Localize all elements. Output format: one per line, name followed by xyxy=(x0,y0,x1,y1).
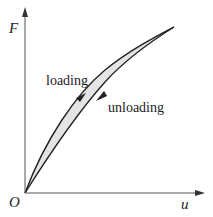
origin-label: O xyxy=(9,194,20,210)
unloading-label: unloading xyxy=(108,100,164,115)
hysteresis-diagram: F u O loading unloading xyxy=(0,0,213,217)
x-axis-label: u xyxy=(181,196,189,212)
y-axis-arrow-icon xyxy=(22,7,28,17)
y-axis-label: F xyxy=(8,20,19,36)
x-axis-arrow-icon xyxy=(195,190,205,196)
loading-label: loading xyxy=(46,73,88,88)
unloading-arrowhead xyxy=(96,91,107,101)
